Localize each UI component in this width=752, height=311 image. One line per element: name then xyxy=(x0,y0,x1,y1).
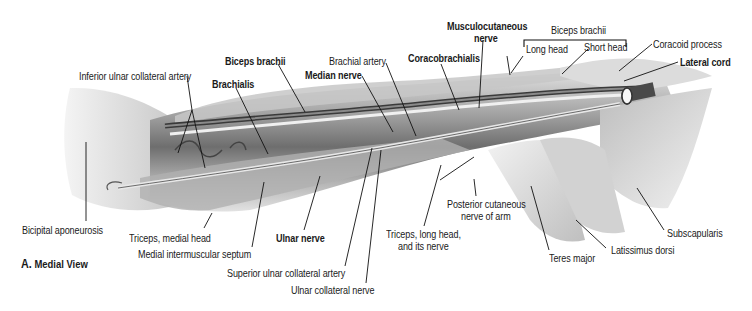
label-posterior-cutaneous-nerve: Posterior cutaneous xyxy=(447,198,526,210)
label-coracobrachialis: Coracobrachialis xyxy=(408,52,480,64)
label-triceps-long-head: Triceps, long head, xyxy=(386,228,461,240)
label-posterior-cutaneous-nerve-line2: nerve of arm xyxy=(461,210,511,222)
label-inferior-ulnar-collateral-artery: Inferior ulnar collateral artery xyxy=(79,70,191,82)
label-ulnar-collateral-nerve: Ulnar collateral nerve xyxy=(291,284,374,296)
anatomy-figure-medial-view: Musculocutaneous nerve Biceps brachii Lo… xyxy=(0,0,752,311)
label-biceps-brachii-bracket: Biceps brachii xyxy=(551,24,606,36)
label-latissimus-dorsi: Latissimus dorsi xyxy=(611,244,674,256)
label-triceps-long-head-line2: and its nerve xyxy=(398,240,449,252)
label-median-nerve: Median nerve xyxy=(305,69,362,81)
label-brachial-artery: Brachial artery xyxy=(329,55,386,67)
label-musculocutaneous-nerve: Musculocutaneous xyxy=(447,20,527,32)
label-short-head: Short head xyxy=(584,41,627,53)
caption-text: Medial View xyxy=(34,258,87,270)
label-bicipital-aponeurosis: Bicipital aponeurosis xyxy=(22,224,103,236)
label-long-head: Long head xyxy=(526,43,568,55)
label-teres-major: Teres major xyxy=(549,252,595,264)
label-biceps-brachii: Biceps brachii xyxy=(225,55,286,67)
caption-letter: A. xyxy=(21,257,32,271)
label-superior-ulnar-collateral-artery: Superior ulnar collateral artery xyxy=(227,267,345,279)
label-triceps-medial-head: Triceps, medial head xyxy=(129,232,211,244)
figure-caption: A. Medial View xyxy=(21,257,88,271)
label-coracoid-process: Coracoid process xyxy=(653,38,722,50)
label-lateral-cord: Lateral cord xyxy=(680,56,731,68)
arm-illustration xyxy=(0,0,752,311)
label-ulnar-nerve: Ulnar nerve xyxy=(276,232,325,244)
label-musculocutaneous-nerve-line2: nerve xyxy=(474,32,498,44)
label-subscapularis: Subscapularis xyxy=(667,227,723,239)
label-medial-intermuscular-septum: Medial intermuscular septum xyxy=(138,248,251,260)
label-brachialis: Brachialis xyxy=(212,78,254,90)
